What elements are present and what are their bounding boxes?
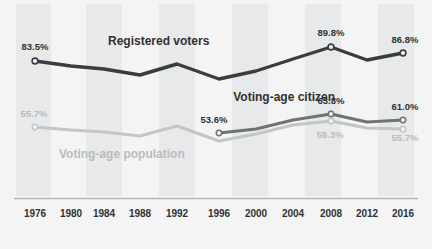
x-tick-2012: 2012 <box>356 208 379 219</box>
marker-vap-1976 <box>32 124 37 129</box>
marker-vap-2008 <box>328 118 333 123</box>
data-label-rv-1976: 83.5% <box>22 41 49 52</box>
marker-vap-2016 <box>400 126 405 131</box>
x-tick-1988: 1988 <box>129 208 152 219</box>
data-label-vac-1996: 53.6% <box>201 114 228 125</box>
x-tick-2016: 2016 <box>392 208 415 219</box>
x-tick-1980: 1980 <box>60 208 83 219</box>
stripe-band-2016 <box>378 4 414 196</box>
stripe-band-1976 <box>16 4 51 196</box>
marker-rv-1976 <box>32 58 38 64</box>
data-label-vap-2008: 58.3% <box>317 129 344 140</box>
voter-turnout-line-chart: 83.5% 89.8% 86.8% 53.6% 63.8% 61.0% 55.7… <box>0 0 432 249</box>
marker-vac-2016 <box>400 117 405 122</box>
series-label-voting-age-population: Voting-age population <box>59 147 185 161</box>
x-tick-1992: 1992 <box>166 208 189 219</box>
series-label-voting-age-citizen: Voting-age citizen <box>233 90 335 104</box>
x-tick-2008: 2008 <box>320 208 343 219</box>
x-tick-2000: 2000 <box>245 208 268 219</box>
series-label-registered-voters: Registered voters <box>108 34 210 48</box>
x-tick-1976: 1976 <box>24 208 47 219</box>
marker-rv-2008 <box>328 44 334 50</box>
stripe-band-1992 <box>159 4 195 196</box>
data-label-vap-2016: 55.7% <box>392 132 419 143</box>
data-label-rv-2008: 89.8% <box>318 27 345 38</box>
x-tick-1996: 1996 <box>208 208 231 219</box>
marker-vac-2008 <box>328 111 333 116</box>
x-tick-1984: 1984 <box>93 208 116 219</box>
chart-canvas: 83.5% 89.8% 86.8% 53.6% 63.8% 61.0% 55.7… <box>0 0 432 249</box>
x-tick-2004: 2004 <box>282 208 305 219</box>
data-label-vac-2016: 61.0% <box>392 101 419 112</box>
marker-rv-2016 <box>400 50 406 56</box>
stripe-band-1984 <box>86 4 122 196</box>
marker-vac-1996 <box>216 130 221 135</box>
data-label-vap-1976: 55.7% <box>21 108 48 119</box>
data-label-rv-2016: 86.8% <box>392 34 419 45</box>
